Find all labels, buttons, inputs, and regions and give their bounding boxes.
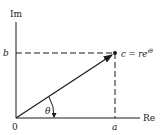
point-c	[113, 51, 117, 55]
re-axis-label: Re	[143, 113, 155, 123]
b-label: b	[3, 48, 9, 58]
theta-label: θ	[45, 106, 51, 116]
a-label: a	[112, 122, 117, 132]
point-c-expression: c = re	[121, 49, 147, 59]
vector-arrow	[16, 55, 112, 118]
point-c-label: c = reiθ	[121, 47, 153, 59]
im-axis-label: Im	[10, 9, 23, 19]
complex-plane-diagram: Im Re 0 b a θ c = reiθ	[0, 0, 163, 135]
origin-label: 0	[12, 122, 18, 132]
point-c-exponent: iθ	[147, 47, 153, 54]
